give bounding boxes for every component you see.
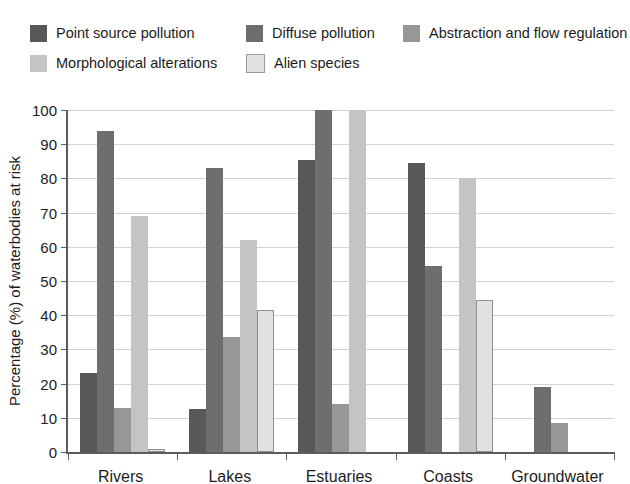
legend-label-abstraction-and-flow-regulation: Abstraction and flow regulation (429, 25, 627, 42)
bar (298, 160, 315, 452)
legend-label-alien-species: Alien species (274, 55, 359, 72)
legend-item-abstraction-and-flow-regulation: Abstraction and flow regulation (403, 18, 627, 48)
bar (349, 110, 366, 452)
legend-swatch-alien-species (246, 54, 265, 73)
y-axis-tick (61, 349, 68, 350)
bar (551, 423, 568, 452)
x-axis-tick (505, 452, 506, 460)
legend-row-1: Point source pollution Diffuse pollution… (0, 18, 630, 48)
x-axis-category-label: Groundwater (511, 468, 604, 484)
y-axis-tick (61, 315, 68, 316)
bar (206, 168, 223, 452)
bar (148, 449, 165, 452)
y-axis-tick-label: 30 (40, 341, 57, 358)
bar-group (189, 110, 274, 452)
legend-item-diffuse-pollution: Diffuse pollution (246, 18, 403, 48)
y-axis-tick-label: 80 (40, 170, 57, 187)
y-axis-tick (61, 247, 68, 248)
legend-label-point-source-pollution: Point source pollution (56, 25, 195, 42)
bar-group (298, 110, 383, 452)
bar (257, 310, 274, 452)
y-axis-tick (61, 281, 68, 282)
y-axis-tick-label: 20 (40, 375, 57, 392)
x-axis-category-label: Coasts (423, 468, 473, 484)
y-axis-tick-label: 10 (40, 409, 57, 426)
y-axis-tick (61, 418, 68, 419)
y-axis-tick (61, 110, 68, 111)
bar (315, 110, 332, 452)
x-axis-tick (68, 452, 69, 460)
y-axis-tick-label: 60 (40, 238, 57, 255)
bar (534, 387, 551, 452)
y-axis-title-text: Percentage (%) of waterbodies at risk (6, 156, 23, 406)
bar (476, 300, 493, 452)
y-axis-tick-label: 50 (40, 273, 57, 290)
y-axis-tick (61, 452, 68, 453)
legend-swatch-morphological-alterations (30, 55, 47, 72)
legend-item-alien-species: Alien species (246, 48, 359, 78)
bar (459, 178, 476, 452)
y-axis-tick (61, 213, 68, 214)
x-axis-category-label: Rivers (98, 468, 143, 484)
y-axis-tick-label: 90 (40, 136, 57, 153)
y-axis-tick (61, 144, 68, 145)
bar (408, 163, 425, 452)
y-axis-tick-label: 40 (40, 307, 57, 324)
legend-label-morphological-alterations: Morphological alterations (56, 55, 217, 72)
x-axis-tick (396, 452, 397, 460)
legend-swatch-diffuse-pollution (246, 25, 263, 42)
y-axis-tick-label: 0 (49, 444, 57, 461)
bar (240, 240, 257, 452)
y-axis-tick-label: 70 (40, 204, 57, 221)
bar-group (80, 110, 165, 452)
chart-legend: Point source pollution Diffuse pollution… (0, 0, 630, 96)
bar (189, 409, 206, 452)
x-axis-tick (177, 452, 178, 460)
bar-group (517, 110, 602, 452)
bar (425, 266, 442, 452)
legend-swatch-abstraction-and-flow-regulation (403, 25, 420, 42)
legend-label-diffuse-pollution: Diffuse pollution (272, 25, 375, 42)
legend-row-2: Morphological alterations Alien species (0, 48, 630, 78)
legend-swatch-point-source-pollution (30, 25, 47, 42)
plot-area: 0102030405060708090100 (66, 110, 614, 454)
x-axis-tick (286, 452, 287, 460)
bar (114, 408, 131, 452)
y-axis-title: Percentage (%) of waterbodies at risk (2, 110, 26, 452)
bar (131, 216, 148, 452)
bar (97, 131, 114, 452)
y-axis-tick (61, 178, 68, 179)
bar (223, 337, 240, 452)
bar-chart: Percentage (%) of waterbodies at risk 01… (0, 96, 630, 484)
x-axis-category-label: Estuaries (306, 468, 373, 484)
y-axis-tick-label: 100 (32, 102, 57, 119)
bar (332, 404, 349, 452)
y-axis-tick (61, 384, 68, 385)
x-axis-category-label: Lakes (208, 468, 251, 484)
legend-item-morphological-alterations: Morphological alterations (30, 48, 246, 78)
legend-item-point-source-pollution: Point source pollution (30, 18, 246, 48)
bar-group (408, 110, 493, 452)
bar (80, 373, 97, 452)
x-axis-tick (614, 452, 615, 460)
